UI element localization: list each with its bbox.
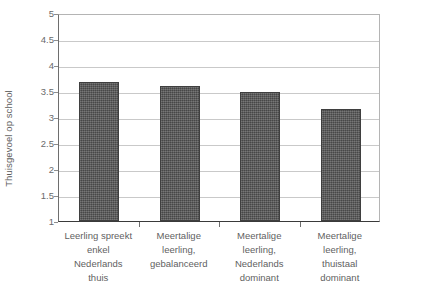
x-axis-category-label-line: gebalanceerd	[140, 257, 219, 271]
bar	[321, 109, 361, 221]
x-axis-category-label: Meertaligeleerling,thuistaaldominant	[300, 229, 381, 291]
y-axis-tick-label: 2.5	[28, 139, 54, 149]
x-axis-category-label-line: Meertalige	[140, 229, 219, 243]
x-axis-category-label: Meertaligeleerling,gebalanceerd	[139, 229, 220, 291]
x-axis-category-label-line: leerling,	[301, 243, 380, 257]
bars-group	[59, 15, 379, 221]
x-axis-category-label-line: enkel	[59, 243, 138, 257]
x-axis-category-label: Meertaligeleerling,Nederlandsdominant	[219, 229, 300, 291]
x-axis-category-label-line: thuis	[59, 271, 138, 285]
x-axis-category-label-line: Nederlands	[59, 257, 138, 271]
y-axis-tick-label: 4.5	[28, 35, 54, 45]
y-axis-title: Thuisgevoel op school	[0, 58, 16, 218]
x-axis-category-label-line: Meertalige	[220, 229, 299, 243]
y-axis-tick-labels: 11.522.533.544.55	[26, 0, 54, 296]
x-axis-category-label: Leerling spreektenkelNederlandsthuis	[58, 229, 139, 291]
x-axis-category-label-line: dominant	[220, 271, 299, 285]
bar-chart: Thuisgevoel op school 11.522.533.544.55 …	[0, 0, 437, 296]
plot-area	[58, 14, 380, 222]
x-axis-category-label-line: leerling,	[220, 243, 299, 257]
y-axis-tick-label: 3.5	[28, 87, 54, 97]
bar	[240, 92, 280, 221]
x-axis-tick-marks	[58, 222, 380, 228]
x-axis-tick-mark	[219, 222, 220, 227]
x-axis-category-label-line: Leerling spreekt	[59, 229, 138, 243]
x-axis-category-label-line: dominant	[301, 271, 380, 285]
x-axis-category-labels: Leerling spreektenkelNederlandsthuisMeer…	[58, 229, 380, 291]
y-axis-tick-label: 2	[28, 165, 54, 175]
x-axis-category-label-line: leerling,	[140, 243, 219, 257]
bar	[160, 86, 200, 221]
y-axis-tick-label: 1.5	[28, 191, 54, 201]
x-axis-category-label-line: Meertalige	[301, 229, 380, 243]
x-axis-tick-mark	[300, 222, 301, 227]
y-axis-tick-label: 4	[28, 61, 54, 71]
y-axis-tick-label: 3	[28, 113, 54, 123]
x-axis-category-label-line: thuistaal	[301, 257, 380, 271]
y-axis-tick-label: 1	[28, 217, 54, 227]
y-axis-title-text: Thuisgevoel op school	[3, 90, 14, 187]
y-axis-tick-label: 5	[28, 9, 54, 19]
bar	[79, 82, 119, 221]
x-axis-category-label-line: Nederlands	[220, 257, 299, 271]
x-axis-tick-mark	[139, 222, 140, 227]
